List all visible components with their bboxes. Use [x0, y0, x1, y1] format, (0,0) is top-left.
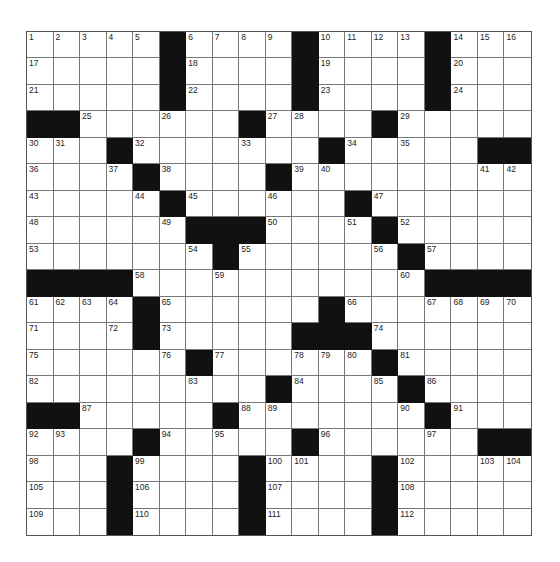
answer-cell[interactable] — [54, 376, 81, 402]
answer-cell[interactable] — [478, 482, 505, 508]
answer-cell[interactable] — [319, 217, 346, 243]
answer-cell[interactable]: 27 — [266, 111, 293, 137]
answer-cell[interactable]: 49 — [160, 217, 187, 243]
answer-cell[interactable] — [160, 403, 187, 429]
answer-cell[interactable]: 67 — [425, 297, 452, 323]
answer-cell[interactable] — [213, 58, 240, 84]
answer-cell[interactable]: 60 — [398, 270, 425, 296]
answer-cell[interactable] — [213, 164, 240, 190]
answer-cell[interactable]: 106 — [133, 482, 160, 508]
answer-cell[interactable] — [80, 138, 107, 164]
answer-cell[interactable]: 45 — [186, 191, 213, 217]
answer-cell[interactable] — [504, 376, 531, 402]
answer-cell[interactable] — [319, 509, 346, 535]
answer-cell[interactable] — [319, 111, 346, 137]
answer-cell[interactable]: 110 — [133, 509, 160, 535]
answer-cell[interactable]: 108 — [398, 482, 425, 508]
answer-cell[interactable] — [504, 244, 531, 270]
answer-cell[interactable] — [345, 85, 372, 111]
answer-cell[interactable] — [425, 164, 452, 190]
answer-cell[interactable]: 54 — [186, 244, 213, 270]
answer-cell[interactable]: 10 — [319, 32, 346, 58]
answer-cell[interactable]: 6 — [186, 32, 213, 58]
answer-cell[interactable] — [80, 482, 107, 508]
answer-cell[interactable]: 61 — [27, 297, 54, 323]
answer-cell[interactable]: 19 — [319, 58, 346, 84]
answer-cell[interactable] — [478, 323, 505, 349]
answer-cell[interactable] — [133, 217, 160, 243]
answer-cell[interactable]: 44 — [133, 191, 160, 217]
answer-cell[interactable]: 58 — [133, 270, 160, 296]
answer-cell[interactable]: 7 — [213, 32, 240, 58]
answer-cell[interactable]: 47 — [372, 191, 399, 217]
answer-cell[interactable] — [239, 376, 266, 402]
answer-cell[interactable] — [54, 244, 81, 270]
answer-cell[interactable] — [54, 482, 81, 508]
answer-cell[interactable]: 84 — [292, 376, 319, 402]
answer-cell[interactable]: 41 — [478, 164, 505, 190]
answer-cell[interactable] — [398, 58, 425, 84]
answer-cell[interactable] — [504, 509, 531, 535]
answer-cell[interactable]: 96 — [319, 429, 346, 455]
answer-cell[interactable] — [107, 58, 134, 84]
answer-cell[interactable] — [213, 85, 240, 111]
answer-cell[interactable] — [266, 297, 293, 323]
answer-cell[interactable] — [186, 482, 213, 508]
answer-cell[interactable] — [345, 244, 372, 270]
answer-cell[interactable] — [186, 323, 213, 349]
answer-cell[interactable] — [80, 85, 107, 111]
answer-cell[interactable] — [266, 270, 293, 296]
answer-cell[interactable] — [398, 164, 425, 190]
answer-cell[interactable] — [80, 58, 107, 84]
answer-cell[interactable] — [133, 85, 160, 111]
answer-cell[interactable] — [451, 429, 478, 455]
answer-cell[interactable] — [292, 217, 319, 243]
answer-cell[interactable] — [345, 164, 372, 190]
answer-cell[interactable] — [345, 58, 372, 84]
answer-cell[interactable]: 20 — [451, 58, 478, 84]
answer-cell[interactable] — [451, 509, 478, 535]
answer-cell[interactable] — [239, 323, 266, 349]
answer-cell[interactable] — [54, 58, 81, 84]
answer-cell[interactable]: 55 — [239, 244, 266, 270]
answer-cell[interactable]: 63 — [80, 297, 107, 323]
answer-cell[interactable]: 40 — [319, 164, 346, 190]
answer-cell[interactable] — [345, 403, 372, 429]
answer-cell[interactable] — [345, 270, 372, 296]
answer-cell[interactable] — [133, 376, 160, 402]
answer-cell[interactable]: 50 — [266, 217, 293, 243]
answer-cell[interactable]: 59 — [213, 270, 240, 296]
answer-cell[interactable] — [504, 482, 531, 508]
answer-cell[interactable] — [345, 376, 372, 402]
answer-cell[interactable]: 103 — [478, 456, 505, 482]
answer-cell[interactable] — [319, 191, 346, 217]
answer-cell[interactable]: 2 — [54, 32, 81, 58]
answer-cell[interactable]: 105 — [27, 482, 54, 508]
answer-cell[interactable]: 102 — [398, 456, 425, 482]
answer-cell[interactable]: 94 — [160, 429, 187, 455]
answer-cell[interactable]: 99 — [133, 456, 160, 482]
answer-cell[interactable] — [239, 58, 266, 84]
answer-cell[interactable] — [160, 270, 187, 296]
answer-cell[interactable] — [133, 111, 160, 137]
answer-cell[interactable]: 28 — [292, 111, 319, 137]
answer-cell[interactable]: 51 — [345, 217, 372, 243]
answer-cell[interactable]: 68 — [451, 297, 478, 323]
answer-cell[interactable] — [107, 429, 134, 455]
answer-cell[interactable]: 74 — [372, 323, 399, 349]
answer-cell[interactable] — [133, 350, 160, 376]
answer-cell[interactable]: 33 — [239, 138, 266, 164]
answer-cell[interactable] — [292, 270, 319, 296]
answer-cell[interactable]: 92 — [27, 429, 54, 455]
answer-cell[interactable]: 81 — [398, 350, 425, 376]
answer-cell[interactable] — [186, 297, 213, 323]
answer-cell[interactable]: 89 — [266, 403, 293, 429]
answer-cell[interactable] — [398, 297, 425, 323]
answer-cell[interactable] — [160, 482, 187, 508]
answer-cell[interactable] — [186, 429, 213, 455]
answer-cell[interactable]: 64 — [107, 297, 134, 323]
answer-cell[interactable]: 9 — [266, 32, 293, 58]
answer-cell[interactable]: 5 — [133, 32, 160, 58]
answer-cell[interactable] — [213, 111, 240, 137]
answer-cell[interactable]: 15 — [478, 32, 505, 58]
